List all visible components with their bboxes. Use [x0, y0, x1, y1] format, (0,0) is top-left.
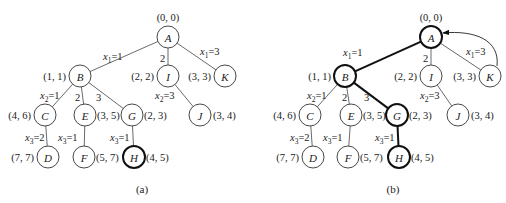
- edge-a-b: [355, 42, 421, 72]
- node-coordinate: (2, 2): [394, 71, 417, 83]
- node-coordinate: (4, 5): [146, 152, 169, 164]
- node-coordinate: (3, 4): [213, 110, 236, 122]
- node-label: H: [394, 152, 404, 164]
- edge-g-h: [398, 126, 399, 146]
- node-i: I(2, 2): [394, 65, 442, 87]
- node-label: E: [347, 110, 355, 122]
- node-coordinate: (3, 3): [188, 71, 211, 83]
- node-j: J(3, 4): [447, 104, 494, 126]
- edge-c-d: [311, 126, 312, 146]
- node-b: B(1, 1): [308, 65, 356, 87]
- node-i: I(2, 2): [131, 65, 179, 87]
- edge-label: x2=3: [419, 90, 440, 104]
- node-coordinate: (0, 0): [420, 12, 443, 24]
- node-coordinate: (5, 7): [96, 152, 119, 164]
- node-d: D(7, 7): [276, 146, 324, 168]
- node-label: A: [164, 32, 172, 44]
- node-coordinate: (4, 5): [411, 152, 434, 164]
- node-coordinate: (0, 0): [157, 12, 180, 24]
- node-c: C(4, 6): [273, 104, 321, 126]
- edge-label: x3=1: [57, 132, 78, 146]
- edge-label: x3=2: [24, 132, 45, 146]
- edge-label: x1=1: [102, 51, 123, 65]
- edge-label: 2: [75, 92, 80, 103]
- tree-figure-a: x1=12x1=3x2=123x2=3x3=2x3=1x3=1A(0, 0)B(…: [8, 12, 236, 197]
- edge-label: x2=1: [306, 90, 327, 104]
- node-coordinate: (5, 7): [360, 152, 383, 164]
- node-label: K: [220, 71, 229, 83]
- edge-e-f: [349, 126, 350, 146]
- node-label: B: [77, 71, 84, 83]
- node-coordinate: (7, 7): [276, 152, 299, 164]
- figure-caption: (a): [136, 183, 149, 196]
- node-label: D: [43, 152, 52, 164]
- edge-label: x1=3: [465, 46, 486, 60]
- node-label: A: [427, 32, 435, 44]
- figure-caption: (b): [387, 183, 400, 196]
- node-label: D: [308, 152, 317, 164]
- edge-label: x3=1: [374, 132, 395, 146]
- edge-label: 3: [364, 92, 369, 103]
- node-coordinate: (1, 1): [308, 71, 331, 83]
- edge-label: x3=1: [322, 132, 343, 146]
- tree-figure-b: x1=12x1=3x2=123x2=3x3=2x3=1x3=1A(0, 0)B(…: [273, 12, 501, 197]
- edge-a-b: [90, 41, 158, 71]
- node-coordinate: (3, 5): [97, 110, 120, 122]
- node-h: H(4, 5): [388, 146, 434, 168]
- node-coordinate: (4, 6): [8, 110, 31, 122]
- edge-label: x1=1: [342, 47, 363, 61]
- node-label: H: [129, 152, 139, 164]
- node-coordinate: (4, 6): [273, 110, 296, 122]
- node-coordinate: (3, 5): [363, 110, 386, 122]
- node-g: G(2, 3): [386, 104, 432, 126]
- node-j: J(3, 4): [189, 104, 236, 126]
- node-coordinate: (1, 1): [43, 71, 66, 83]
- node-coordinate: (2, 2): [131, 71, 154, 83]
- node-label: G: [128, 110, 136, 122]
- node-label: G: [393, 110, 401, 122]
- edge-b-e: [81, 87, 83, 104]
- edge-b-g: [89, 83, 123, 109]
- node-label: B: [342, 71, 349, 83]
- edge-b-g: [354, 83, 388, 109]
- edge-label: 2: [342, 92, 347, 103]
- node-coordinate: (3, 3): [453, 71, 476, 83]
- node-f: F(5, 7): [337, 146, 383, 168]
- node-label: C: [306, 110, 314, 122]
- node-coordinate: (2, 3): [144, 110, 167, 122]
- node-label: F: [344, 152, 352, 164]
- node-label: C: [41, 110, 49, 122]
- node-k: K(3, 3): [188, 65, 236, 87]
- node-c: C(4, 6): [8, 104, 56, 126]
- node-e: E(3, 5): [74, 104, 120, 126]
- edge-label: 3: [96, 92, 101, 103]
- node-a: A(0, 0): [420, 12, 443, 49]
- node-a: A(0, 0): [157, 12, 180, 49]
- edge-label: 2: [160, 53, 165, 64]
- node-f: F(5, 7): [73, 146, 119, 168]
- edge-i-j: [175, 85, 193, 107]
- node-e: E(3, 5): [340, 104, 386, 126]
- node-label: E: [81, 110, 89, 122]
- edge-c-d: [46, 126, 47, 146]
- edge-label: x1=3: [199, 46, 220, 60]
- edge-label: x3=1: [109, 132, 130, 146]
- edge-label: x3=2: [289, 132, 310, 146]
- node-b: B(1, 1): [43, 65, 91, 87]
- edge-label: 2: [423, 53, 428, 64]
- search-tree-diagram: x1=12x1=3x2=123x2=3x3=2x3=1x3=1A(0, 0)B(…: [0, 0, 506, 203]
- node-label: K: [485, 71, 494, 83]
- node-coordinate: (7, 7): [11, 152, 34, 164]
- edge-g-h: [133, 126, 134, 146]
- node-d: D(7, 7): [11, 146, 59, 168]
- node-h: H(4, 5): [123, 146, 169, 168]
- node-coordinate: (3, 4): [471, 110, 494, 122]
- node-coordinate: (2, 3): [409, 110, 432, 122]
- edge-label: x2=3: [154, 90, 175, 104]
- node-label: F: [80, 152, 88, 164]
- node-k: K(3, 3): [453, 65, 501, 87]
- node-g: G(2, 3): [121, 104, 167, 126]
